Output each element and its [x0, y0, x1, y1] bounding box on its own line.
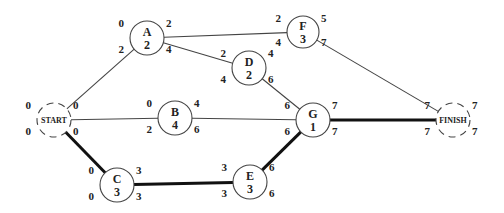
- late-finish-label: 6: [194, 123, 200, 135]
- late-finish-label: 6: [269, 187, 275, 199]
- node-label: D: [245, 55, 254, 69]
- early-finish-label: 0: [73, 99, 79, 111]
- node-duration: 2: [246, 68, 252, 82]
- node-label: START: [41, 116, 67, 125]
- node-a: A20224: [119, 17, 173, 55]
- node-duration: 2: [144, 38, 150, 52]
- late-start-label: 0: [26, 125, 32, 137]
- nodes-layer: START0000A20224B40426C30303D22446E33636F…: [26, 12, 479, 202]
- edge-start-c: [66, 132, 105, 173]
- node-duration: 3: [247, 182, 253, 196]
- late-finish-label: 7: [472, 125, 478, 137]
- late-start-label: 6: [285, 125, 291, 137]
- node-label: A: [143, 25, 152, 39]
- node-d: D22446: [221, 47, 275, 85]
- node-b: B40426: [147, 97, 201, 135]
- early-start-label: 0: [26, 99, 32, 111]
- early-finish-label: 4: [268, 47, 274, 59]
- early-finish-label: 6: [269, 161, 275, 173]
- node-label: C: [113, 172, 122, 186]
- late-finish-label: 7: [332, 125, 338, 137]
- node-duration: 4: [172, 118, 178, 132]
- node-label: FINISH: [439, 116, 467, 125]
- early-finish-label: 7: [472, 99, 478, 111]
- node-label: F: [299, 19, 306, 33]
- late-start-label: 4: [221, 73, 227, 85]
- node-duration: 3: [300, 32, 306, 46]
- late-start-label: 2: [119, 43, 125, 55]
- early-start-label: 7: [425, 99, 431, 111]
- early-finish-label: 5: [321, 12, 327, 24]
- early-start-label: 6: [285, 99, 291, 111]
- early-start-label: 0: [119, 17, 125, 29]
- early-finish-label: 7: [332, 99, 338, 111]
- edge-c-e: [134, 182, 233, 184]
- late-finish-label: 0: [73, 125, 79, 137]
- edge-b-g: [192, 118, 296, 120]
- node-duration: 3: [114, 185, 120, 199]
- node-duration: 1: [310, 120, 316, 134]
- edge-a-f: [164, 33, 287, 38]
- late-start-label: 7: [425, 125, 431, 137]
- early-start-label: 3: [222, 161, 228, 173]
- late-finish-label: 7: [321, 36, 327, 48]
- early-start-label: 0: [147, 97, 153, 109]
- late-finish-label: 3: [136, 190, 142, 202]
- node-label: B: [171, 105, 179, 119]
- early-finish-label: 3: [136, 164, 142, 176]
- node-c: C30303: [89, 164, 143, 202]
- node-label: E: [246, 169, 254, 183]
- early-start-label: 2: [221, 47, 227, 59]
- late-finish-label: 4: [166, 43, 172, 55]
- node-f: F32547: [276, 12, 328, 48]
- late-start-label: 4: [276, 36, 282, 48]
- early-start-label: 0: [89, 164, 95, 176]
- late-start-label: 2: [147, 123, 153, 135]
- node-g: G16767: [285, 99, 339, 137]
- late-start-label: 3: [222, 187, 228, 199]
- edge-start-b: [71, 118, 158, 119]
- network-diagram: START0000A20224B40426C30303D22446E33636F…: [0, 0, 504, 213]
- late-finish-label: 6: [268, 73, 274, 85]
- node-finish: FINISH7777: [425, 99, 479, 137]
- early-finish-label: 2: [166, 17, 172, 29]
- node-label: G: [308, 107, 317, 121]
- early-start-label: 2: [276, 12, 282, 24]
- edge-e-g: [262, 132, 301, 170]
- late-start-label: 0: [89, 190, 95, 202]
- early-finish-label: 4: [194, 97, 200, 109]
